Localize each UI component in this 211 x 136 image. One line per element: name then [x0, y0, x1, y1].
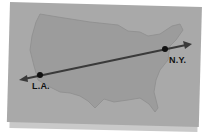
city-marker-ny: [162, 46, 168, 52]
city-marker-la: [37, 72, 43, 78]
city-label-ny: N.Y.: [169, 55, 186, 65]
usa-outline: [30, 14, 183, 112]
city-label-la: L.A.: [32, 81, 50, 91]
arrowhead-right-icon: [183, 41, 192, 49]
arrowhead-left-icon: [19, 75, 28, 82]
usa-map: [0, 0, 211, 136]
